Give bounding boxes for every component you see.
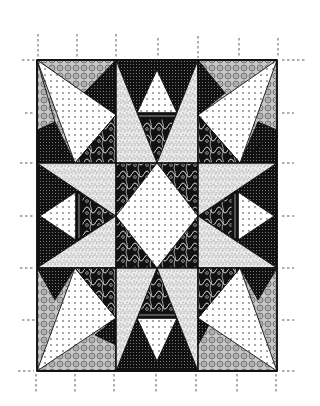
- block-top-right: [198, 60, 277, 163]
- block-center: [116, 163, 198, 268]
- quilt: [37, 60, 277, 371]
- block-middle-left: [37, 163, 116, 268]
- block-middle-right: [198, 163, 277, 268]
- block-bottom-center: [116, 268, 198, 371]
- block-top-center: [116, 60, 198, 163]
- block-bottom-right: [198, 268, 277, 371]
- block-top-left: [37, 60, 116, 163]
- quilt-illustration: [0, 0, 320, 406]
- block-bottom-left: [37, 268, 116, 371]
